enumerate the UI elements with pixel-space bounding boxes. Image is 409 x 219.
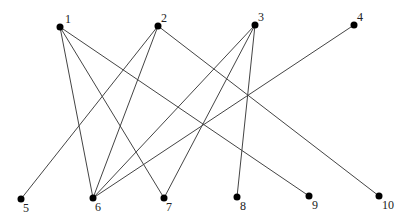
node-label-2: 2 <box>161 11 167 25</box>
graph-canvas: 12345678910 <box>0 0 409 219</box>
node-label-6: 6 <box>95 200 101 214</box>
edge-3-6 <box>93 25 255 198</box>
node-label-5: 5 <box>23 201 29 215</box>
node-label-8: 8 <box>240 199 246 213</box>
edge-2-5 <box>21 26 158 199</box>
node-label-4: 4 <box>357 10 363 24</box>
bipartite-graph: 12345678910 <box>0 0 409 219</box>
node-label-10: 10 <box>382 198 394 212</box>
edge-3-8 <box>237 25 255 197</box>
node-label-7: 7 <box>166 200 172 214</box>
node-label-3: 3 <box>258 10 264 24</box>
edge-1-6 <box>60 27 93 198</box>
edge-4-6 <box>93 25 354 198</box>
node-1 <box>57 24 64 31</box>
node-label-1: 1 <box>65 12 71 26</box>
edge-3-7 <box>164 25 255 198</box>
edge-1-9 <box>60 27 309 196</box>
node-label-9: 9 <box>312 198 318 212</box>
edge-2-10 <box>158 26 379 196</box>
